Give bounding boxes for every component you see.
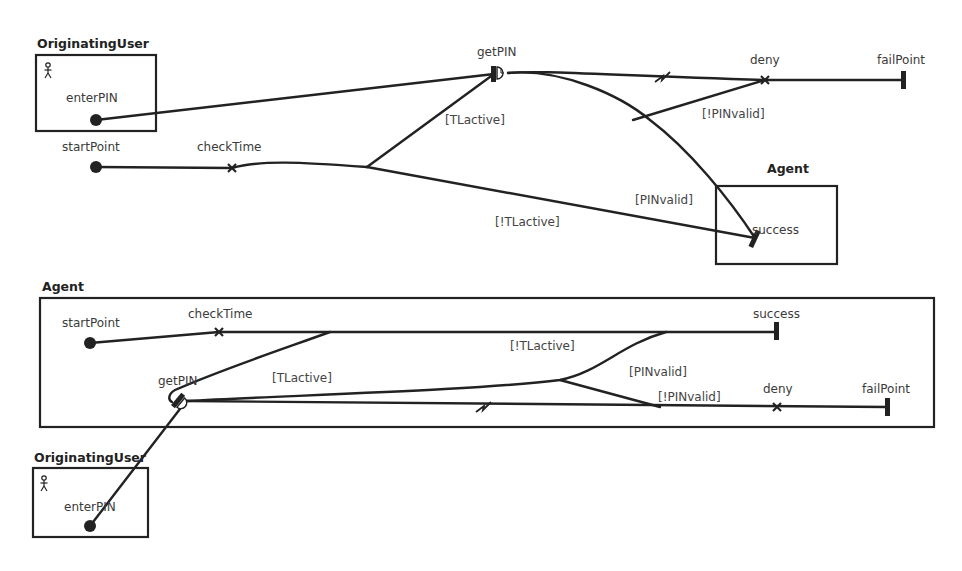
path-pinvalid-branch — [508, 72, 755, 238]
guard-not-pinvalid: [!PINvalid] — [658, 390, 721, 404]
guard-pinvalid: [PINvalid] — [635, 193, 693, 207]
label-deny: deny — [763, 382, 793, 396]
component-title: OriginatingUser — [37, 36, 150, 51]
label-startpoint: startPoint — [62, 140, 120, 154]
label-enterpin: enterPIN — [66, 91, 118, 105]
guard-not-tlactive: [!TLactive] — [495, 215, 560, 229]
getpin-timer-stub — [491, 66, 504, 82]
label-deny: deny — [750, 53, 780, 67]
label-checktime: checkTime — [188, 307, 253, 321]
start-point-startpoint — [84, 337, 96, 349]
top-diagram: OriginatingUser Agent — [36, 36, 925, 264]
label-getpin: getPIN — [158, 374, 197, 388]
actor-icon — [45, 63, 52, 78]
label-success: success — [753, 307, 800, 321]
label-failpoint: failPoint — [862, 382, 910, 396]
guard-tlactive: [TLactive] — [272, 371, 332, 385]
guard-pinvalid: [PINvalid] — [629, 365, 687, 379]
end-point-success — [774, 322, 779, 340]
end-point-failpoint — [885, 398, 890, 416]
label-success: success — [752, 223, 799, 237]
top-agent-component: Agent — [716, 161, 837, 264]
use-case-maps-diagram: OriginatingUser Agent — [0, 0, 962, 571]
label-checktime: checkTime — [197, 140, 262, 154]
path-pinvalid-branch — [186, 332, 666, 401]
bottom-diagram: Agent OriginatingUser — [33, 279, 934, 537]
guard-not-tlactive: [!TLactive] — [510, 339, 575, 353]
path-not-tlactive-branch — [367, 167, 755, 238]
label-enterpin: enterPIN — [64, 500, 116, 514]
start-point-enterpin — [90, 114, 102, 126]
end-point-failpoint — [901, 71, 906, 89]
component-title: OriginatingUser — [34, 450, 147, 465]
path-tlactive-branch — [169, 332, 330, 402]
guard-not-pinvalid: [!PINvalid] — [702, 107, 765, 121]
label-failpoint: failPoint — [877, 53, 925, 67]
start-point-startpoint — [90, 161, 102, 173]
path-getpin-to-failpoint — [186, 401, 887, 407]
component-title: Agent — [42, 279, 84, 294]
component-title: Agent — [767, 161, 809, 176]
top-paths — [96, 72, 903, 238]
path-not-pinvalid-branch — [560, 380, 660, 407]
label-getpin: getPIN — [477, 45, 516, 59]
path-start-to-success — [90, 332, 776, 343]
stub-bar — [491, 66, 496, 82]
actor-icon — [41, 476, 48, 491]
bottom-paths — [90, 332, 887, 526]
start-point-enterpin — [84, 520, 96, 532]
label-startpoint: startPoint — [62, 316, 120, 330]
guard-tlactive: [TLactive] — [445, 113, 505, 127]
